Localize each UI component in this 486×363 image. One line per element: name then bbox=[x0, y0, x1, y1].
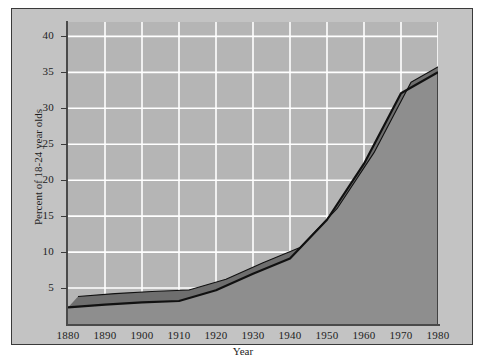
x-tick-label: 1910 bbox=[159, 329, 199, 341]
x-tick-label: 1940 bbox=[270, 329, 310, 341]
y-tick-label: 40 bbox=[20, 29, 54, 41]
y-tick-mark bbox=[61, 180, 67, 181]
x-axis-title: Year bbox=[12, 345, 474, 357]
y-tick-mark bbox=[61, 216, 67, 217]
y-tick-mark bbox=[61, 252, 67, 253]
y-tick-label: 5 bbox=[20, 281, 54, 293]
x-tick-label: 1900 bbox=[122, 329, 162, 341]
y-tick-mark bbox=[61, 72, 67, 73]
y-axis-line bbox=[66, 21, 68, 325]
figure-panel: 510152025303540 188018901900191019201930… bbox=[11, 8, 473, 345]
x-tick-label: 1920 bbox=[196, 329, 236, 341]
y-tick-mark bbox=[61, 36, 67, 37]
x-tick-label: 1880 bbox=[48, 329, 88, 341]
chart-root: 510152025303540 188018901900191019201930… bbox=[0, 0, 486, 363]
y-tick-mark bbox=[61, 108, 67, 109]
y-axis-title: Percent of 18-24 year olds bbox=[32, 67, 44, 267]
x-tick-label: 1960 bbox=[344, 329, 384, 341]
x-tick-label: 1980 bbox=[418, 329, 458, 341]
y-tick-mark bbox=[61, 144, 67, 145]
area-series bbox=[68, 22, 438, 324]
x-axis-line bbox=[66, 324, 440, 326]
x-tick-label: 1970 bbox=[381, 329, 421, 341]
x-tick-label: 1950 bbox=[307, 329, 347, 341]
y-tick-mark bbox=[61, 288, 67, 289]
x-tick-label: 1930 bbox=[233, 329, 273, 341]
x-tick-label: 1890 bbox=[85, 329, 125, 341]
plot-area bbox=[68, 22, 438, 324]
